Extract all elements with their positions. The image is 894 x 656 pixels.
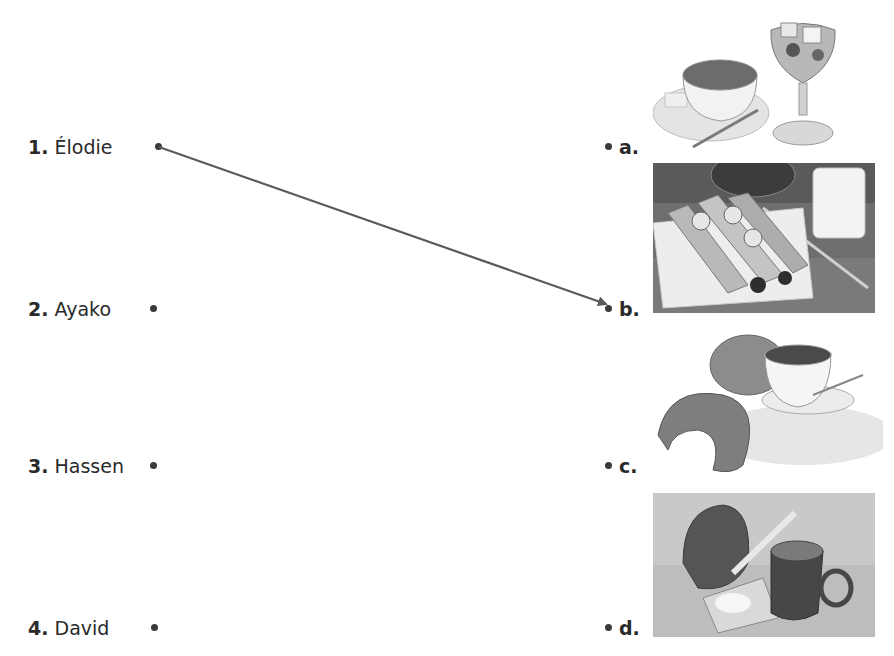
person-name: Ayako: [55, 298, 112, 320]
match-dot-c[interactable]: [605, 462, 612, 469]
bread-butter-and-coffee-mug-photo: [653, 493, 875, 637]
option-letter: c.: [619, 455, 637, 477]
person-number: 3.: [28, 455, 48, 477]
option-item-c[interactable]: c.: [605, 455, 637, 477]
option-item-b[interactable]: b.: [605, 298, 640, 320]
crepes-with-milk-photo: [653, 163, 875, 313]
option-letter: d.: [619, 617, 640, 639]
match-dot-4[interactable]: [151, 624, 158, 631]
person-name: David: [55, 617, 110, 639]
person-name: Hassen: [55, 455, 124, 477]
person-item-1: 1. Élodie: [28, 136, 112, 158]
person-name: Élodie: [55, 136, 113, 158]
option-letter: b.: [619, 298, 640, 320]
match-dot-3[interactable]: [150, 462, 157, 469]
person-item-2: 2. Ayako: [28, 298, 111, 320]
option-item-a[interactable]: a.: [605, 136, 639, 158]
match-dot-1[interactable]: [155, 143, 162, 150]
match-dot-b[interactable]: [605, 305, 612, 312]
person-number: 1.: [28, 136, 48, 158]
option-item-d[interactable]: d.: [605, 617, 640, 639]
match-dot-2[interactable]: [150, 305, 157, 312]
person-number: 2.: [28, 298, 48, 320]
match-dot-a[interactable]: [605, 143, 612, 150]
option-letter: a.: [619, 136, 639, 158]
croissants-and-hot-chocolate-photo: [653, 325, 883, 475]
person-item-3: 3. Hassen: [28, 455, 124, 477]
person-item-4: 4. David: [28, 617, 109, 639]
tea-cup-and-fruit-sundae-photo: [653, 5, 888, 155]
match-dot-d[interactable]: [605, 624, 612, 631]
person-number: 4.: [28, 617, 48, 639]
